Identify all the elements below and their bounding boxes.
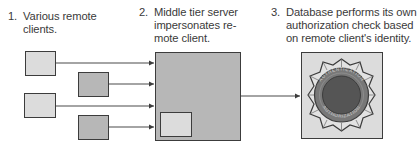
- remote-client-box-4: [78, 115, 109, 140]
- remote-client-box-3: [24, 93, 56, 118]
- impersonated-client-box: [160, 112, 192, 137]
- remote-client-box-1: [25, 51, 56, 76]
- database-box: AUTHENTICATION AUTHORIZATION: [301, 52, 383, 139]
- middle-tier-server-box: [155, 52, 241, 141]
- authorization-seal-icon: AUTHENTICATION AUTHORIZATION: [302, 53, 381, 137]
- remote-client-box-2: [78, 72, 109, 97]
